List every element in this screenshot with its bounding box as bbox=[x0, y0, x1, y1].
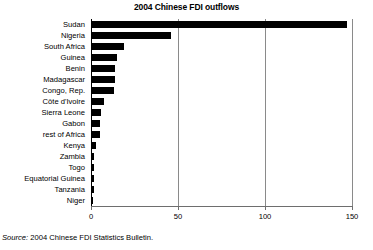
tick-mark bbox=[178, 206, 179, 210]
bar bbox=[91, 98, 104, 106]
source-label: Source: bbox=[2, 233, 28, 242]
category-label: Gabon bbox=[62, 119, 85, 128]
fdi-outflows-bar-chart: 2004 Chinese FDI outflows SudanNigeriaSo… bbox=[0, 0, 373, 250]
category-label: Togo bbox=[69, 163, 85, 172]
category-label: Tanzania bbox=[55, 185, 85, 194]
category-label: Equatorial Guinea bbox=[24, 174, 85, 183]
bar bbox=[91, 65, 115, 73]
category-label: Sierra Leone bbox=[42, 108, 85, 117]
bar bbox=[91, 76, 115, 84]
bar bbox=[91, 21, 347, 29]
bar bbox=[91, 197, 93, 205]
gridline bbox=[178, 19, 179, 206]
category-label: Benin bbox=[66, 64, 85, 73]
x-tick-label: 50 bbox=[174, 212, 182, 221]
x-tick-label: 0 bbox=[89, 212, 93, 221]
category-label: Nigeria bbox=[61, 31, 85, 40]
category-label: Sudan bbox=[63, 20, 85, 29]
category-axis-labels: SudanNigeriaSouth AfricaGuineaBeninMadag… bbox=[0, 19, 88, 206]
category-label: Niger bbox=[67, 196, 85, 205]
category-label: Kenya bbox=[63, 141, 85, 150]
plot-area: 050100150 bbox=[91, 19, 352, 206]
bar bbox=[91, 54, 117, 62]
category-label: Guinea bbox=[61, 53, 86, 62]
chart-title: 2004 Chinese FDI outflows bbox=[0, 2, 373, 12]
bar bbox=[91, 175, 94, 183]
bar bbox=[91, 153, 94, 161]
category-label: rest of Africa bbox=[43, 130, 85, 139]
bar bbox=[91, 142, 96, 150]
bar bbox=[91, 120, 100, 128]
tick-mark bbox=[265, 206, 266, 210]
bar bbox=[91, 87, 114, 95]
gridline bbox=[352, 19, 353, 206]
category-label: Zambia bbox=[60, 152, 85, 161]
source-text: 2004 Chinese FDI Statistics Bulletin. bbox=[30, 233, 153, 242]
bar bbox=[91, 109, 101, 117]
source-note: Source: 2004 Chinese FDI Statistics Bull… bbox=[2, 233, 153, 242]
category-label: Madagascar bbox=[43, 75, 85, 84]
x-tick-label: 150 bbox=[346, 212, 359, 221]
category-label: South Africa bbox=[44, 42, 85, 51]
tick-mark bbox=[91, 206, 92, 210]
category-label: Côte d'Ivoire bbox=[43, 97, 85, 106]
category-label: Congo, Rep. bbox=[42, 86, 85, 95]
bar bbox=[91, 164, 94, 172]
bar bbox=[91, 32, 171, 40]
bar bbox=[91, 186, 94, 194]
x-tick-label: 100 bbox=[259, 212, 272, 221]
tick-mark bbox=[352, 206, 353, 210]
gridline bbox=[265, 19, 266, 206]
category-axis-line bbox=[91, 206, 352, 207]
bar bbox=[91, 43, 124, 51]
bar bbox=[91, 131, 100, 139]
